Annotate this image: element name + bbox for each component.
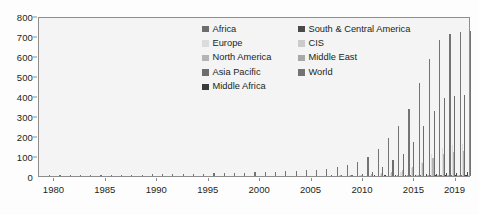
legend-item[interactable]: Middle Africa (202, 80, 298, 94)
y-axis-tick-label: 100 (17, 152, 33, 163)
legend: AfricaEuropeNorth AmericaAsia PacificMid… (202, 22, 402, 94)
legend-item-label: North America (213, 53, 272, 62)
bar (434, 111, 435, 176)
y-axis-tick-mark (33, 137, 37, 138)
legend-swatch-icon (298, 40, 305, 47)
y-axis-tick-mark (33, 117, 37, 118)
legend-item[interactable]: World (298, 65, 402, 79)
y-axis-tick-mark (33, 97, 37, 98)
bar-group (451, 18, 461, 176)
y-axis-tick-label: 700 (17, 32, 33, 43)
bar (331, 175, 332, 176)
bar-group (420, 18, 430, 176)
legend-item[interactable]: North America (202, 51, 298, 65)
x-axis-tick-label: 2019 (444, 184, 465, 195)
legend-item-label: Africa (213, 25, 237, 34)
chart-figure: 0100200300400500600700800 19801985199019… (0, 0, 479, 215)
bar-group (122, 18, 132, 176)
bar (464, 95, 465, 176)
bar-group (50, 18, 60, 176)
x-axis-tick-mark (53, 178, 54, 181)
bar-group (81, 18, 91, 176)
x-axis-tick-label: 2010 (351, 184, 372, 195)
x-axis-tick-mark (455, 178, 456, 181)
legend-item[interactable]: Europe (202, 36, 298, 50)
x-axis-tick-mark (259, 178, 260, 181)
legend-item[interactable]: South & Central America (298, 22, 402, 36)
bar-group (410, 18, 420, 176)
legend-swatch-icon (298, 69, 305, 76)
y-axis-tick-label: 500 (17, 72, 33, 83)
bar (384, 175, 385, 176)
legend-item-label: Middle East (309, 53, 358, 62)
bar (374, 175, 375, 176)
legend-item-label: CIS (309, 39, 325, 48)
x-axis-tick-mark (105, 178, 106, 181)
bar (470, 31, 471, 176)
x-axis-tick-label: 2005 (300, 184, 321, 195)
legend-item[interactable]: Africa (202, 22, 298, 36)
legend-swatch-icon (202, 84, 209, 91)
x-axis-tick-label: 1985 (94, 184, 115, 195)
legend-item-label: Asia Pacific (213, 68, 261, 77)
bar (351, 175, 352, 176)
bar-group (61, 18, 71, 176)
legend-swatch-icon (202, 55, 209, 62)
bar-group (440, 18, 450, 176)
y-axis-tick-mark (33, 77, 37, 78)
y-axis-tick-label: 200 (17, 132, 33, 143)
legend-swatch-icon (202, 26, 209, 33)
bar (444, 98, 445, 176)
bar (392, 160, 393, 176)
y-axis-tick-mark (33, 157, 37, 158)
y-axis-tick-label: 0 (28, 172, 33, 183)
legend-swatch-icon (202, 40, 209, 47)
bar-group (173, 18, 183, 176)
legend-item[interactable]: Middle East (298, 51, 402, 65)
legend-swatch-icon (298, 26, 305, 33)
x-axis-tick-label: 2000 (249, 184, 270, 195)
x-axis-tick-label: 2015 (403, 184, 424, 195)
x-axis-tick-label: 1980 (43, 184, 64, 195)
bar (362, 174, 363, 176)
bar (413, 142, 414, 176)
bar-group (132, 18, 142, 176)
legend-item[interactable]: Asia Pacific (202, 65, 298, 79)
bar (403, 154, 404, 176)
legend-swatch-icon (202, 69, 209, 76)
bar-group (461, 18, 471, 176)
legend-item-label: Europe (213, 39, 243, 48)
bar (382, 167, 383, 176)
y-axis-tick-label: 800 (17, 12, 33, 23)
bar-group (143, 18, 153, 176)
legend-item-label: South & Central America (309, 25, 411, 34)
bar (423, 126, 424, 176)
bar-group (184, 18, 194, 176)
bar (395, 175, 396, 176)
bar-group (102, 18, 112, 176)
y-axis-tick-label: 300 (17, 112, 33, 123)
bar-group (163, 18, 173, 176)
x-axis-tick-mark (311, 178, 312, 181)
bar (405, 175, 406, 176)
bar (454, 96, 455, 176)
x-axis-tick-mark (156, 178, 157, 181)
x-axis-tick-label: 1990 (146, 184, 167, 195)
bar-group (430, 18, 440, 176)
x-axis-tick-mark (362, 178, 363, 181)
x-axis-tick-mark (208, 178, 209, 181)
y-axis-tick-label: 400 (17, 92, 33, 103)
y-axis: 0100200300400500600700800 (0, 17, 38, 177)
bar-group (153, 18, 163, 176)
x-axis: 198019851990199520002005201020152019 (38, 178, 470, 200)
bar (341, 175, 342, 176)
bar-group (91, 18, 101, 176)
legend-item-label: World (309, 68, 333, 77)
y-axis-tick-mark (33, 57, 37, 58)
legend-item[interactable]: CIS (298, 36, 402, 50)
legend-item-label: Middle Africa (213, 82, 266, 91)
bar (372, 172, 373, 176)
legend-swatch-icon (298, 55, 305, 62)
bar-group (112, 18, 122, 176)
x-axis-tick-mark (413, 178, 414, 181)
